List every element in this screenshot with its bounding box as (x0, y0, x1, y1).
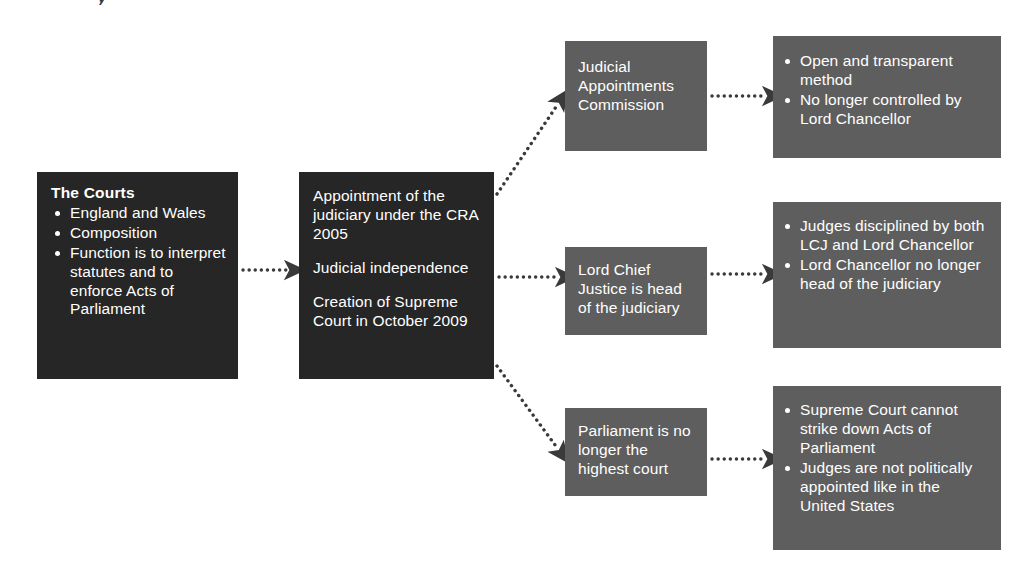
node-parliament-outcomes-bullet-list: Supreme Court cannot strike down Acts of… (781, 401, 989, 515)
list-item: Lord Chancellor no longer head of the ju… (781, 256, 989, 294)
node-appointment-paragraph: Judicial independence (313, 259, 484, 278)
node-parliament-text: Parliament is no longer the highest cour… (578, 422, 697, 479)
node-appointment-paragraph: Creation of Supreme Court in October 200… (313, 293, 484, 331)
node-parliament-not-highest-court: Parliament is no longer the highest cour… (565, 408, 707, 496)
list-item: Function is to interpret statutes and to… (51, 244, 226, 320)
node-jac-outcomes-bullet-list: Open and transparent method No longer co… (781, 52, 989, 129)
list-item: Judges disciplined by both LCJ and Lord … (781, 217, 989, 255)
node-the-courts-heading: The Courts (51, 184, 226, 203)
diagram-canvas: y (0, 0, 1029, 586)
node-parliament-outcomes: Supreme Court cannot strike down Acts of… (773, 386, 1001, 550)
node-lcj-text: Lord Chief Justice is head of the judici… (578, 261, 697, 318)
list-item: Supreme Court cannot strike down Acts of… (781, 401, 989, 458)
node-the-courts-bullet-list: England and Wales Composition Function i… (51, 204, 226, 319)
title-fragment-text: y (96, 0, 109, 5)
node-lcj-outcomes: Judges disciplined by both LCJ and Lord … (773, 202, 1001, 348)
node-jac-text: Judicial Appointments Commission (578, 58, 697, 115)
connector-appointment-to-jac (497, 104, 558, 194)
node-lord-chief-justice: Lord Chief Justice is head of the judici… (565, 247, 707, 335)
node-the-courts: The Courts England and Wales Composition… (37, 172, 238, 379)
list-item: England and Wales (51, 204, 226, 223)
list-item: Composition (51, 224, 226, 243)
node-lcj-outcomes-bullet-list: Judges disciplined by both LCJ and Lord … (781, 217, 989, 294)
node-appointment-paragraph: Appointment of the judiciary under the C… (313, 187, 484, 244)
node-appointment-of-judiciary: Appointment of the judiciary under the C… (299, 172, 494, 379)
node-jac-outcomes: Open and transparent method No longer co… (773, 36, 1001, 158)
list-item: No longer controlled by Lord Chancellor (781, 91, 989, 129)
connector-appointment-to-parliament (497, 366, 558, 449)
list-item: Open and transparent method (781, 52, 989, 90)
node-judicial-appointments-commission: Judicial Appointments Commission (565, 41, 707, 151)
list-item: Judges are not politically appointed lik… (781, 459, 989, 516)
